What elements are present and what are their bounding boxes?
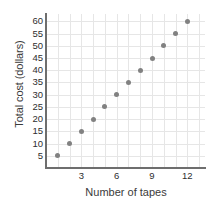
gridline-vertical bbox=[128, 14, 129, 168]
data-point bbox=[138, 68, 143, 73]
x-tick-label: 9 bbox=[137, 171, 167, 181]
data-point bbox=[67, 141, 72, 146]
gridline-vertical bbox=[105, 14, 106, 168]
gridline-horizontal bbox=[46, 156, 205, 157]
data-point bbox=[161, 43, 166, 48]
data-point bbox=[173, 31, 178, 36]
gridline-vertical bbox=[176, 14, 177, 168]
gridline-vertical bbox=[187, 14, 188, 168]
y-axis-title: Total cost (dollars) bbox=[13, 9, 25, 159]
data-point bbox=[102, 104, 107, 109]
gridline-horizontal bbox=[46, 119, 205, 120]
plot-area bbox=[46, 14, 205, 168]
gridline-horizontal bbox=[46, 95, 205, 96]
gridline-vertical bbox=[199, 14, 200, 168]
scatter-chart: 51015202530354045505560 Total cost (doll… bbox=[0, 0, 214, 206]
data-point bbox=[114, 92, 119, 97]
data-point bbox=[150, 56, 155, 61]
x-tick-label: 6 bbox=[102, 171, 132, 181]
x-axis-line bbox=[45, 167, 206, 169]
data-point bbox=[91, 117, 96, 122]
gridline-vertical bbox=[58, 14, 59, 168]
gridline-horizontal bbox=[46, 107, 205, 108]
data-point bbox=[185, 19, 190, 24]
gridline-vertical bbox=[81, 14, 82, 168]
gridline-vertical bbox=[164, 14, 165, 168]
gridline-horizontal bbox=[46, 46, 205, 47]
gridline-horizontal bbox=[46, 70, 205, 71]
data-point bbox=[55, 153, 60, 158]
gridline-vertical bbox=[93, 14, 94, 168]
gridline-vertical bbox=[140, 14, 141, 168]
gridline-horizontal bbox=[46, 131, 205, 132]
x-axis-title: Number of tapes bbox=[46, 186, 206, 198]
x-tick-label: 12 bbox=[172, 171, 202, 181]
gridline-horizontal bbox=[46, 58, 205, 59]
x-tick-label: 3 bbox=[66, 171, 96, 181]
data-point bbox=[126, 80, 131, 85]
y-axis-line bbox=[45, 13, 47, 169]
gridline-horizontal bbox=[46, 21, 205, 22]
data-point bbox=[79, 129, 84, 134]
gridline-horizontal bbox=[46, 34, 205, 35]
gridline-vertical bbox=[117, 14, 118, 168]
gridline-vertical bbox=[152, 14, 153, 168]
